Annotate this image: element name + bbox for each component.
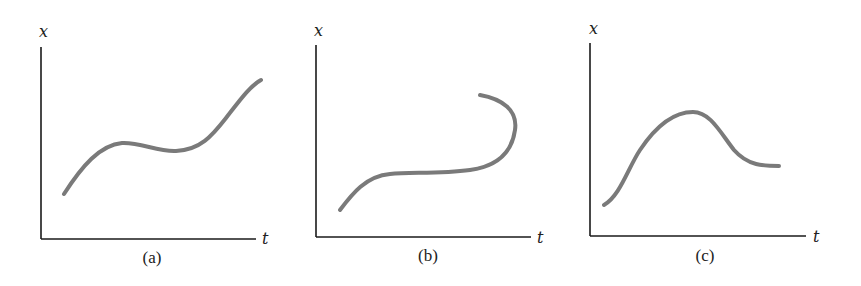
panel-b: x t (b) [314, 21, 544, 265]
curve-b [340, 95, 515, 210]
y-axis-label-a: x [39, 22, 48, 41]
x-axis-label-a: t [262, 229, 269, 248]
panel-c: x t (c) [589, 19, 820, 265]
curve-a [64, 80, 261, 194]
curve-c [604, 112, 779, 205]
figure-canvas: x t (a) x t (b) x t (c) [0, 0, 861, 286]
x-axis-label-b: t [537, 228, 544, 247]
y-axis-label-b: x [314, 21, 323, 40]
panel-a: x t (a) [39, 22, 269, 267]
caption-c: (c) [696, 246, 715, 265]
y-axis-label-c: x [589, 19, 598, 38]
x-axis-label-c: t [813, 227, 820, 246]
caption-a: (a) [143, 248, 162, 267]
caption-b: (b) [418, 246, 438, 265]
